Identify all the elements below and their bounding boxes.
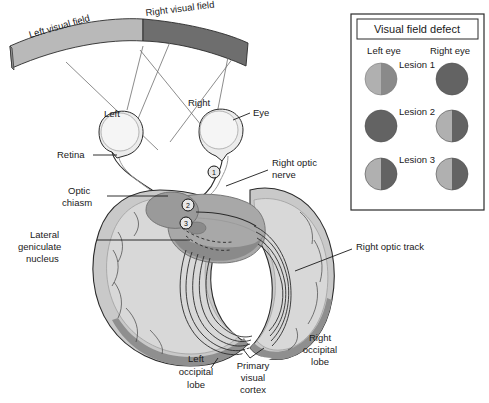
optic-chiasm-label-line2: chiasm	[62, 197, 92, 208]
ray-mid-a	[140, 50, 210, 136]
lesion-1-right-eye-disc	[436, 63, 468, 95]
lesion-marker-3: 3	[180, 217, 192, 229]
legend-title: Visual field defect	[374, 23, 460, 35]
right-occipital-callout: Right occipital lobe	[303, 332, 337, 367]
right-occipital-label-line3: lobe	[311, 356, 329, 367]
lesion-marker-1: 1	[208, 166, 220, 178]
visual-pathway-diagram: Left visual field Right visual field Lef…	[0, 0, 489, 403]
lesion-3-left-eye-disc	[365, 158, 397, 190]
right-optic-nerve-callout: Right optic nerve	[226, 157, 317, 186]
lesion-3-right-eye-disc	[436, 158, 468, 190]
primary-visual-cortex-label-line2: visual	[241, 372, 265, 383]
lesion-marker-1-number: 1	[212, 169, 216, 176]
lesion-marker-2-number: 2	[186, 202, 190, 209]
primary-visual-cortex-label-line1: Primary	[237, 360, 270, 371]
lesion-3-label: Lesion 3	[399, 154, 435, 165]
brain-group	[93, 188, 334, 366]
lgn-label-line3: nucleus	[26, 253, 59, 264]
lesion-2-right-eye-disc	[436, 110, 468, 142]
lesion-2-label: Lesion 2	[399, 106, 435, 117]
ray-left-cross	[127, 46, 143, 110]
optic-chiasm-label-line1: Optic	[68, 185, 90, 196]
primary-visual-cortex-label-line3: cortex	[240, 384, 266, 395]
left-eye-label: Left	[104, 108, 120, 119]
right-optic-nerve-label-line1: Right optic	[272, 157, 317, 168]
lesion-1-left-eye-disc	[365, 63, 397, 95]
right-occipital-label-line1: Right	[309, 332, 332, 343]
figure-canvas: Left visual field Right visual field Lef…	[0, 0, 489, 403]
lesion-2-left-eye-disc	[365, 110, 397, 142]
eye-label: Eye	[253, 107, 269, 118]
visual-field-defect-legend: Visual field defect Left eye Right eye L…	[351, 14, 484, 210]
left-occipital-label-line1: Left	[188, 353, 204, 364]
right-eye-inner	[200, 111, 238, 149]
left-occipital-label-line3: lobe	[187, 379, 205, 390]
right-visual-field-label: Right visual field	[145, 0, 215, 18]
right-optic-nerve-leader-line	[226, 170, 268, 186]
right-optic-nerve-label-line2: nerve	[272, 169, 296, 180]
lesion-marker-2: 2	[182, 199, 194, 211]
right-occipital-label-line2: occipital	[303, 344, 337, 355]
right-optic-track-label: Right optic track	[356, 241, 424, 252]
lesion-marker-3-number: 3	[184, 220, 188, 227]
lesion-1-label: Lesion 1	[399, 59, 435, 70]
lgn-label-line2: geniculate	[18, 241, 61, 252]
left-occipital-label-line2: occipital	[179, 366, 213, 377]
right-eye-label: Right	[188, 97, 211, 108]
retina-label: Retina	[57, 149, 85, 160]
lgn-label-line1: Lateral	[30, 229, 59, 240]
legend-col-right-eye: Right eye	[430, 45, 470, 56]
legend-col-left-eye: Left eye	[367, 45, 401, 56]
eye-callout: Eye	[233, 107, 269, 120]
